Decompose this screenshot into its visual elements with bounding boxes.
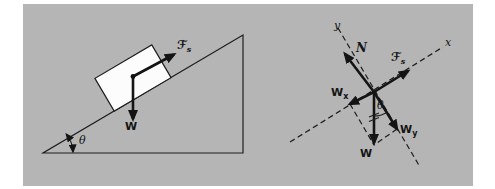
physics-figure-page: ℱs W θ y x N ℱs bbox=[0, 0, 495, 189]
weight-label-fbd: W bbox=[360, 147, 372, 160]
weight-label: W bbox=[125, 120, 137, 133]
figure-panel bbox=[23, 4, 473, 186]
block-center-dot bbox=[131, 74, 136, 79]
fbd-angle-label: θ bbox=[377, 99, 384, 112]
x-axis-label: x bbox=[445, 36, 452, 49]
incline-angle-label: θ bbox=[79, 134, 86, 147]
y-axis-label: y bbox=[333, 19, 341, 32]
incline-and-fbd-figure: ℱs W θ y x N ℱs bbox=[0, 0, 495, 189]
normal-force-label: N bbox=[355, 41, 368, 55]
